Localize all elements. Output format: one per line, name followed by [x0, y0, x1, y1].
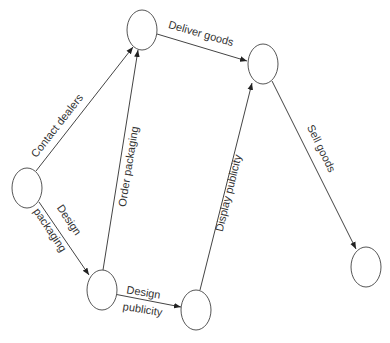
- event-node-5: [248, 44, 278, 84]
- event-node-6: [351, 247, 381, 287]
- event-node-2: [127, 10, 157, 50]
- network-diagram: Contact dealers Design packaging Order p…: [0, 0, 390, 343]
- label-contact-dealers: Contact dealers: [28, 91, 85, 159]
- label-sell-goods: Sell goods: [305, 123, 339, 175]
- edge-sell-goods: [272, 81, 356, 249]
- event-node-1: [12, 168, 42, 208]
- event-node-4: [181, 290, 211, 330]
- edge-contact-dealers: [36, 47, 133, 171]
- event-node-3: [87, 270, 117, 310]
- label-display-publicity: Display publicity: [213, 153, 244, 233]
- label-deliver-goods: Deliver goods: [167, 18, 235, 48]
- label-design-publicity-1: Design: [126, 283, 162, 300]
